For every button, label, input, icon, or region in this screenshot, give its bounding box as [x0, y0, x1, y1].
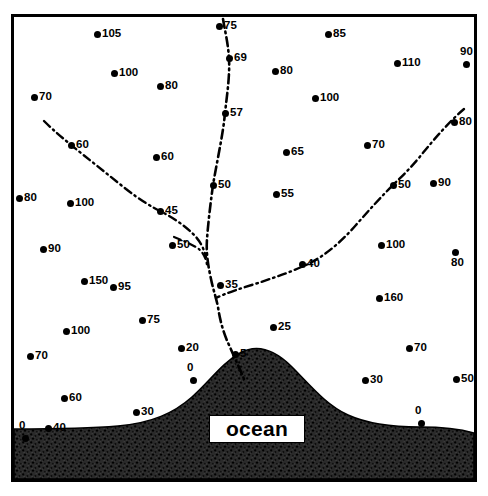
sample-point-marker [190, 377, 197, 384]
sample-point-marker [406, 345, 413, 352]
sample-point-label: 105 [102, 28, 121, 39]
sample-point-label: 40 [53, 422, 66, 433]
sample-point-marker [22, 435, 29, 442]
sample-point-marker [16, 195, 23, 202]
sample-point-marker [270, 324, 277, 331]
sample-point-marker [226, 55, 233, 62]
sample-point-label: 50 [218, 179, 231, 190]
sample-point-marker [63, 328, 70, 335]
sample-point-label: 50 [461, 373, 474, 384]
sample-point-label: 45 [165, 205, 178, 216]
sample-point-marker [430, 180, 437, 187]
sample-point-marker [362, 377, 369, 384]
sample-point-marker [312, 95, 319, 102]
sample-point-marker [217, 282, 224, 289]
sample-point-marker [325, 31, 332, 38]
sample-point-marker [169, 242, 176, 249]
sample-point-label: 80 [451, 257, 464, 268]
sample-point-label: 30 [370, 374, 383, 385]
sample-point-label: 65 [291, 146, 304, 157]
sample-point-marker [45, 425, 52, 432]
sample-point-label: 90 [438, 177, 451, 188]
sample-point-label: 5 [240, 348, 246, 359]
sample-point-label: 75 [147, 314, 160, 325]
sample-point-label: 90 [48, 243, 61, 254]
sample-point-marker [67, 200, 74, 207]
sample-point-label: 100 [320, 92, 339, 103]
sample-point-label: 80 [459, 116, 472, 127]
sample-point-marker [364, 142, 371, 149]
sample-point-label: 55 [281, 188, 294, 199]
sample-point-marker [157, 83, 164, 90]
sample-point-label: 100 [119, 67, 138, 78]
sample-point-marker [418, 420, 425, 427]
sample-point-label: 50 [177, 239, 190, 250]
sample-point-label: 100 [75, 197, 94, 208]
sample-point-marker [133, 409, 140, 416]
map-title [0, 0, 488, 3]
sample-point-label: 70 [35, 350, 48, 361]
sample-point-marker [68, 142, 75, 149]
sample-point-label: 60 [161, 151, 174, 162]
sample-point-marker [222, 110, 229, 117]
sample-point-label: 35 [225, 279, 238, 290]
sample-point-label: 80 [165, 80, 178, 91]
map-frame: 1057585691008011090801007057806060657050… [11, 14, 477, 482]
sample-point-marker [273, 191, 280, 198]
sample-point-marker [452, 249, 459, 256]
sample-point-label: 57 [230, 107, 243, 118]
sample-point-marker [31, 94, 38, 101]
sample-point-marker [394, 60, 401, 67]
sample-point-label: 80 [280, 65, 293, 76]
sample-point-label: 150 [89, 275, 108, 286]
sample-point-marker [272, 68, 279, 75]
sample-point-label: 0 [415, 405, 421, 416]
sample-point-label: 80 [24, 192, 37, 203]
sample-point-label: 70 [372, 139, 385, 150]
sample-point-label: 100 [71, 325, 90, 336]
coastal-watershed-figure: 1057585691008011090801007057806060657050… [0, 0, 488, 496]
sample-point-marker [110, 284, 117, 291]
sample-point-label: 0 [187, 362, 193, 373]
sample-point-label: 60 [76, 139, 89, 150]
sample-point-marker [283, 149, 290, 156]
sample-point-marker [216, 23, 223, 30]
sample-point-label: 25 [278, 321, 291, 332]
sample-point-marker [40, 246, 47, 253]
sample-point-label: 50 [398, 179, 411, 190]
sample-point-marker [178, 345, 185, 352]
sample-point-label: 70 [39, 91, 52, 102]
sample-point-label: 70 [414, 342, 427, 353]
sample-point-marker [157, 208, 164, 215]
sample-point-label: 85 [333, 28, 346, 39]
sample-point-label: 160 [384, 292, 403, 303]
sample-point-marker [453, 376, 460, 383]
sample-point-marker [299, 261, 306, 268]
sample-point-label: 69 [234, 52, 247, 63]
sample-point-label: 40 [307, 258, 320, 269]
sample-point-label: 60 [69, 392, 82, 403]
sample-point-marker [153, 154, 160, 161]
sample-point-marker [463, 61, 470, 68]
sample-point-label: 110 [402, 57, 421, 68]
sample-point-marker [61, 395, 68, 402]
sample-point-marker [390, 182, 397, 189]
sample-point-label: 30 [141, 406, 154, 417]
sample-point-marker [378, 242, 385, 249]
sample-point-marker [232, 351, 239, 358]
sample-point-label: 75 [224, 20, 237, 31]
sample-point-label: 20 [186, 342, 199, 353]
sample-point-marker [139, 317, 146, 324]
sample-point-label: 95 [118, 281, 131, 292]
sample-point-marker [81, 278, 88, 285]
sample-point-marker [94, 31, 101, 38]
sample-point-marker [376, 295, 383, 302]
sample-point-marker [210, 182, 217, 189]
sample-point-marker [27, 353, 34, 360]
sample-point-marker [111, 70, 118, 77]
ocean-label: ocean [209, 415, 305, 443]
sample-point-marker [451, 119, 458, 126]
sample-point-label: 0 [19, 420, 25, 431]
sample-point-label: 90 [460, 46, 473, 57]
sample-point-label: 100 [386, 239, 405, 250]
